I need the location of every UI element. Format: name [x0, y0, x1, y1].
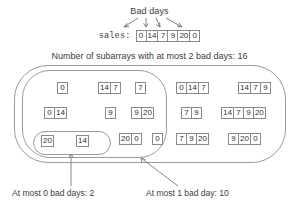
subarray: 7: [135, 82, 146, 94]
subarray-at_most_2: 9200: [228, 133, 261, 145]
array-cell: 20: [196, 133, 209, 145]
subarray: 9: [105, 107, 116, 119]
subarray-at_most_2: 147920: [221, 107, 266, 119]
subarray: 200: [119, 133, 142, 145]
subarray: 0: [152, 133, 163, 145]
subarray: 20: [41, 135, 54, 147]
array-cell: 9: [105, 107, 116, 119]
array-cell: 20: [41, 135, 54, 147]
subarray: 9200: [228, 133, 261, 145]
subarray-at_most_2: 0147: [176, 82, 209, 94]
array-cell: 0: [250, 133, 261, 145]
subarray-at_most_0: 20: [41, 135, 54, 147]
subarray-at_most_1: 9: [105, 107, 116, 119]
array-cell: 7: [110, 82, 121, 94]
array-cell: 7: [135, 82, 146, 94]
subarray: 14: [76, 135, 89, 147]
sales-label: sales:: [99, 31, 131, 41]
array-cell: 0: [152, 133, 163, 145]
array-cell: 9: [260, 82, 271, 94]
subarray-at_most_1: 0: [152, 133, 163, 145]
subarray-at_most_1: 200: [119, 133, 142, 145]
subarray-at_most_2: 7920: [176, 133, 209, 145]
sales-array: 01479200: [136, 30, 201, 42]
subarray-count-caption: Number of subarrays with at most 2 bad d…: [0, 51, 299, 61]
subarray: 1479: [238, 82, 271, 94]
array-cell: 20: [253, 107, 266, 119]
subarray-at_most_1: 0: [57, 82, 68, 94]
subarray: 147: [98, 82, 121, 94]
sales-array-row: sales: 01479200: [0, 30, 299, 42]
array-cell: 20: [141, 107, 154, 119]
subarray-at_most_0: 14: [76, 135, 89, 147]
subarray-at_most_2: 1479: [238, 82, 271, 94]
subarray: 014: [44, 107, 67, 119]
subarray: 7920: [176, 133, 209, 145]
subarray-at_most_1: 147: [98, 82, 121, 94]
array-cell: 0: [189, 30, 200, 42]
array-cell: 9: [191, 107, 202, 119]
array-cell: 0: [57, 82, 68, 94]
diagram-canvas: Bad days sales: 01479200 Number of subar…: [0, 0, 299, 213]
sales-cells: 01479200: [136, 30, 201, 42]
subarray-at_most_1: 7: [135, 82, 146, 94]
subarray-at_most_1: 014: [44, 107, 67, 119]
array-cell: 0: [131, 133, 142, 145]
subarray: 920: [131, 107, 154, 119]
subarray: 0: [57, 82, 68, 94]
subarray-at_most_1: 920: [131, 107, 154, 119]
label-at-most-1-bad-day: At most 1 bad day: 10: [146, 188, 229, 198]
subarray: 147920: [221, 107, 266, 119]
array-cell: 14: [76, 135, 89, 147]
subarray: 79: [181, 107, 202, 119]
bad-days-label: Bad days: [0, 6, 299, 16]
subarray-at_most_2: 79: [181, 107, 202, 119]
label-at-most-0-bad-days: At most 0 bad days: 2: [12, 188, 94, 198]
array-cell: 14: [54, 107, 67, 119]
array-cell: 7: [198, 82, 209, 94]
subarray: 0147: [176, 82, 209, 94]
